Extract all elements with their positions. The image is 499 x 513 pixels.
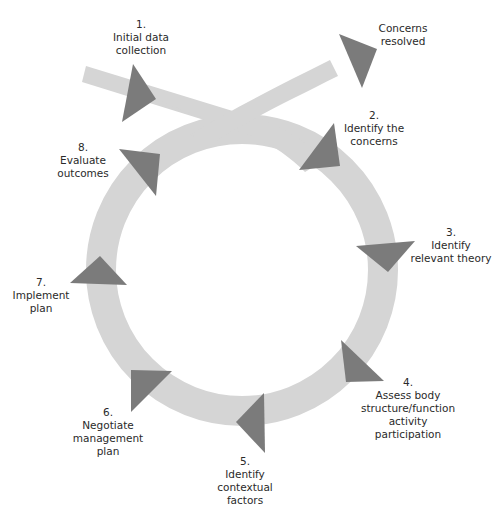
exit-line: Concerns <box>379 22 428 35</box>
step-8-number: 8. <box>57 141 109 154</box>
label-step-2: 2. Identify the concerns <box>344 109 404 148</box>
label-step-4: 4. Assess body structure/function activi… <box>361 376 455 441</box>
label-step-7: 7. Implement plan <box>13 276 70 315</box>
label-step-8: 8. Evaluate outcomes <box>57 141 109 180</box>
step-6-line: plan <box>73 445 143 458</box>
step-2-line: concerns <box>344 135 404 148</box>
step-1-line: Initial data <box>113 31 169 44</box>
step-7-line: Implement <box>13 289 70 302</box>
step-1-line: collection <box>113 44 169 57</box>
step-5-number: 5. <box>217 455 273 468</box>
step-7-line: plan <box>13 302 70 315</box>
step-6-number: 6. <box>73 406 143 419</box>
step-4-number: 4. <box>361 376 455 389</box>
arrow-step-7 <box>70 256 127 285</box>
step-2-number: 2. <box>344 109 404 122</box>
arrow-step-3 <box>356 241 415 272</box>
step-1-number: 1. <box>113 18 169 31</box>
step-5-line: Identify <box>217 468 273 481</box>
arrow-exit <box>339 34 377 88</box>
step-6-line: management <box>73 432 143 445</box>
step-8-line: outcomes <box>57 167 109 180</box>
step-4-line: structure/function <box>361 402 455 415</box>
step-3-number: 3. <box>411 226 492 239</box>
step-3-line: relevant theory <box>411 252 492 265</box>
step-3-line: Identify <box>411 239 492 252</box>
step-4-line: participation <box>361 428 455 441</box>
step-4-line: activity <box>361 415 455 428</box>
step-8-line: Evaluate <box>57 154 109 167</box>
label-exit: Concerns resolved <box>379 22 428 48</box>
step-5-line: factors <box>217 494 273 507</box>
label-step-6: 6. Negotiate management plan <box>73 406 143 458</box>
label-step-3: 3. Identify relevant theory <box>411 226 492 265</box>
step-5-line: contextual <box>217 481 273 494</box>
label-step-5: 5. Identify contextual factors <box>217 455 273 507</box>
step-2-line: Identify the <box>344 122 404 135</box>
step-4-line: Assess body <box>361 389 455 402</box>
step-6-line: Negotiate <box>73 419 143 432</box>
exit-line: resolved <box>379 35 428 48</box>
step-7-number: 7. <box>13 276 70 289</box>
label-step-1: 1. Initial data collection <box>113 18 169 57</box>
